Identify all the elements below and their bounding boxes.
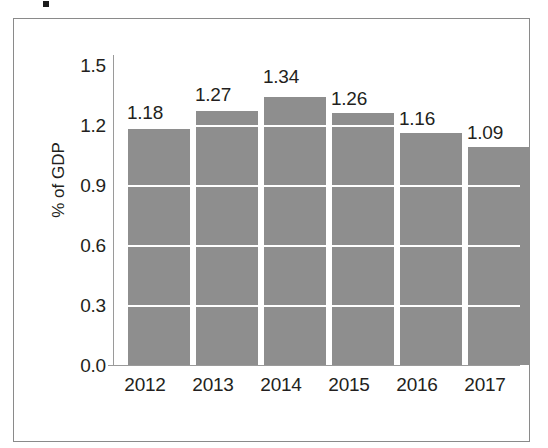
bar-2015[interactable] bbox=[332, 113, 394, 365]
bar-value-2017: 1.09 bbox=[438, 122, 532, 144]
x-axis-line bbox=[108, 365, 520, 366]
bar-2014[interactable] bbox=[264, 97, 326, 365]
gridline-0_3 bbox=[114, 305, 520, 307]
bar-value-2014: 1.34 bbox=[234, 66, 328, 88]
y-tick-label-0_3: 0.3 bbox=[62, 295, 106, 317]
bar-2017[interactable] bbox=[468, 147, 530, 365]
bar-2016[interactable] bbox=[400, 133, 462, 365]
y-tick-label-0_9: 0.9 bbox=[62, 175, 106, 197]
gridline-0_6 bbox=[114, 245, 520, 247]
bar-2013[interactable] bbox=[196, 111, 258, 365]
y-tick-label-1_5: 1.5 bbox=[62, 55, 106, 77]
y-tick-label-0_6: 0.6 bbox=[62, 235, 106, 257]
x-tick-label-2017: 2017 bbox=[438, 374, 532, 396]
gridline-0_9 bbox=[114, 185, 520, 187]
bar-2012[interactable] bbox=[128, 129, 190, 365]
bar-value-2015: 1.26 bbox=[302, 88, 396, 110]
bar-chart: % of GDP 1.5 1.2 0.9 0.6 0.3 0.0 1.18 1.… bbox=[0, 0, 548, 448]
